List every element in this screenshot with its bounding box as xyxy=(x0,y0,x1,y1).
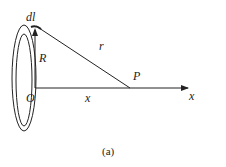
inner-ring xyxy=(16,34,32,126)
label-R: R xyxy=(39,52,46,64)
label-x-distance: x xyxy=(85,92,90,104)
radius-arrowhead-icon xyxy=(32,28,38,36)
label-x-axis: x xyxy=(189,90,194,102)
dl-segment xyxy=(31,26,41,29)
r-line xyxy=(36,26,130,88)
label-O: O xyxy=(26,92,35,104)
figure-caption: (a) xyxy=(102,146,114,157)
label-P: P xyxy=(133,70,140,82)
label-r: r xyxy=(99,40,104,52)
current-loop-diagram xyxy=(0,0,226,167)
label-dl: dl xyxy=(26,11,35,23)
